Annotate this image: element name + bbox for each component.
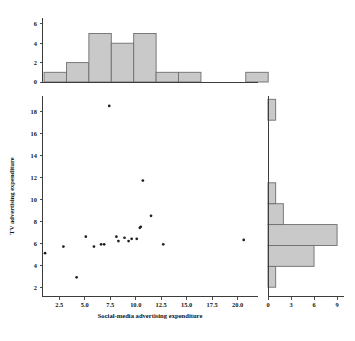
top-histogram-bar bbox=[66, 63, 88, 82]
data-point bbox=[130, 238, 133, 241]
top-histogram-bar bbox=[89, 34, 111, 82]
top-histogram-ytick-label: 2 bbox=[34, 59, 37, 66]
top-histogram-bar bbox=[179, 72, 201, 82]
right-histogram-bar bbox=[268, 225, 337, 246]
right-histogram-bar bbox=[268, 266, 276, 287]
right-histogram-bar bbox=[268, 183, 276, 204]
scatter-ytick-label: 18 bbox=[31, 108, 37, 115]
right-histogram-bar bbox=[268, 245, 314, 266]
scatter-ytick-label: 6 bbox=[34, 240, 38, 247]
data-point bbox=[123, 236, 126, 239]
scatter-xtick-label: 17.5 bbox=[207, 301, 218, 308]
scatter-xtick-label: 20.0 bbox=[232, 301, 243, 308]
top-histogram-bar bbox=[111, 43, 133, 82]
right-histogram-xtick-label: 3 bbox=[289, 301, 292, 308]
scatter-panel: 246810121416182.55.07.510.012.515.017.52… bbox=[31, 96, 258, 308]
scatter-xtick-label: 12.5 bbox=[156, 301, 167, 308]
data-point bbox=[93, 245, 96, 248]
scatter-ytick-label: 12 bbox=[31, 174, 37, 181]
data-point bbox=[100, 243, 103, 246]
scatter-xtick-label: 10.0 bbox=[130, 301, 141, 308]
right-histogram-bar bbox=[268, 204, 283, 225]
chart-canvas: 0246246810121416182.55.07.510.012.515.01… bbox=[0, 0, 355, 341]
top-histogram-ytick-label: 0 bbox=[34, 78, 37, 85]
y-axis-title: TV advertising expenditure bbox=[8, 157, 15, 234]
scatter-xtick-label: 2.5 bbox=[55, 301, 63, 308]
right-histogram-bar bbox=[268, 99, 276, 120]
right-histogram-xtick-label: 0 bbox=[266, 301, 269, 308]
data-point bbox=[108, 105, 111, 108]
scatter-xtick-label: 15.0 bbox=[181, 301, 192, 308]
scatter-xtick-label: 5.0 bbox=[81, 301, 89, 308]
scatter-ytick-label: 14 bbox=[31, 152, 38, 159]
top-marginal-histogram: 0246 bbox=[34, 18, 268, 85]
scatter-ytick-label: 2 bbox=[34, 284, 37, 291]
top-histogram-bar bbox=[246, 72, 268, 82]
scatter-axes bbox=[43, 96, 259, 297]
data-point bbox=[115, 235, 118, 238]
data-point bbox=[117, 240, 120, 243]
right-histogram-xtick-label: 6 bbox=[312, 301, 316, 308]
top-histogram-bar bbox=[156, 72, 178, 82]
data-point bbox=[162, 243, 165, 246]
data-point bbox=[62, 245, 65, 248]
data-point bbox=[127, 240, 130, 243]
scatter-ytick-label: 16 bbox=[31, 130, 38, 137]
top-histogram-ytick-label: 6 bbox=[34, 20, 38, 27]
data-point bbox=[75, 276, 78, 279]
scatter-ytick-label: 10 bbox=[31, 196, 37, 203]
top-histogram-ytick-label: 4 bbox=[34, 40, 38, 47]
data-point bbox=[150, 214, 153, 217]
data-point bbox=[135, 238, 138, 241]
data-point bbox=[139, 225, 142, 228]
data-point bbox=[44, 252, 47, 255]
right-marginal-histogram: 0369 bbox=[266, 96, 344, 308]
scatter-ytick-label: 4 bbox=[34, 262, 38, 269]
data-point bbox=[103, 243, 106, 246]
scatter-plot-with-marginal-histograms: 0246246810121416182.55.07.510.012.515.01… bbox=[0, 0, 355, 341]
data-point bbox=[142, 179, 145, 182]
scatter-xtick-label: 7.5 bbox=[106, 301, 114, 308]
top-histogram-bar bbox=[44, 72, 66, 82]
x-axis-title: Social-media advertising expenditure bbox=[98, 312, 203, 319]
data-point bbox=[84, 235, 87, 238]
right-histogram-xtick-label: 9 bbox=[335, 301, 338, 308]
top-histogram-bar bbox=[134, 34, 156, 82]
scatter-ytick-label: 8 bbox=[34, 218, 37, 225]
data-point bbox=[242, 239, 245, 242]
